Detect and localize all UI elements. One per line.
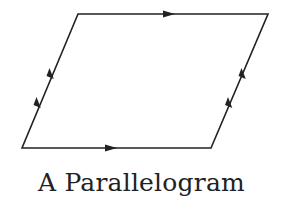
parallelogram-outline xyxy=(22,14,268,148)
figure-caption: A Parallelogram xyxy=(0,168,283,197)
bottom-arrow-icon xyxy=(105,145,117,152)
top-arrow-icon xyxy=(163,11,175,18)
right-double-arrow-icon xyxy=(225,68,246,108)
left-double-arrow-icon xyxy=(34,68,54,108)
